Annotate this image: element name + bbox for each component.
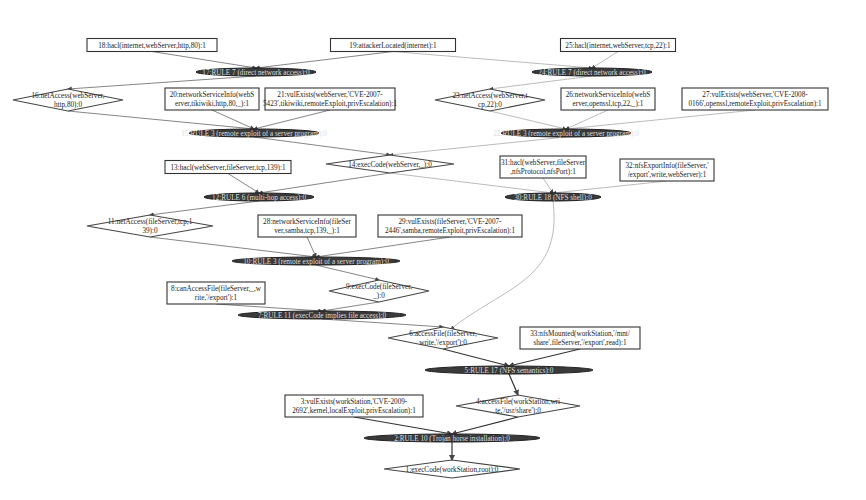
node-leaf-31[interactable]: 31:hacl(webServer,fileServer,nfsProtocol… <box>500 156 586 178</box>
node-rule-rule7b[interactable]: 24:RULE 7 (direct network access):0 <box>532 68 652 77</box>
edge-19-to-rule7a <box>256 52 393 69</box>
node-label: 18:hacl(internet,webServer,http,80):1 <box>98 42 206 50</box>
node-derived-11[interactable]: 11:netAccess(fileServer,tcp,139):0 <box>87 215 213 237</box>
node-label: 2692',kernel,localExploit,privEscalation… <box>292 407 416 415</box>
node-leaf-19[interactable]: 19:attackerLocated(internet):1 <box>331 39 456 52</box>
edge-rule7b-to-23 <box>490 76 592 89</box>
node-derived-9[interactable]: 9:execCode(fileServer,_):0 <box>329 280 429 302</box>
node-label: 25:hacl(internet,webServer,tcp,22):1 <box>565 42 671 50</box>
node-label: 5:RULE 17 (NFS semantics):0 <box>465 367 554 375</box>
edge-18-to-rule7a <box>152 52 256 69</box>
edge-19-to-rule7b <box>393 52 592 69</box>
node-label: 22:RULE 3 (remote exploit of a server pr… <box>493 130 639 138</box>
node-derived-16[interactable]: 16:netAccess(webServer,http,80):0 <box>13 89 123 111</box>
node-rule-rule3c[interactable]: 10:RULE 3 (remote exploit of a server pr… <box>232 257 400 266</box>
node-derived-14[interactable]: 14:execCode(webServer,_):0 <box>326 155 454 173</box>
node-leaf-27[interactable]: 27:vulExists(webServer,'CVE-2008-0166',o… <box>682 88 828 110</box>
node-leaf-33[interactable]: 33:nfsMounted(workStation,'/mnt/share',f… <box>520 327 640 349</box>
node-rule-rule17[interactable]: 5:RULE 17 (NFS semantics):0 <box>425 366 593 375</box>
node-rule-rule7a[interactable]: 17:RULE 7 (direct network access):0 <box>196 68 316 77</box>
node-label: 0166',openssl,remoteExploit,privEscalati… <box>688 100 822 108</box>
edge-3-to-rule10 <box>354 417 452 434</box>
node-label: 33:nfsMounted(workStation,'/mnt/ <box>530 330 630 338</box>
edge-4-to-rule10 <box>452 417 518 434</box>
node-label: 24:RULE 7 (direct network access):0 <box>538 69 646 77</box>
edge-rule3a-to-14 <box>254 137 390 155</box>
edge-29-to-rule3c <box>316 237 450 257</box>
node-derived-23[interactable]: 23:netAccess(webServer,tcp,22):0 <box>435 89 545 111</box>
edge-25-to-rule7b <box>592 52 618 69</box>
node-label: 8:canAccessFile(fileServer,_,w <box>171 285 262 293</box>
node-leaf-8[interactable]: 8:canAccessFile(fileServer,_,write,'/exp… <box>167 282 265 304</box>
node-label: 13:hacl(webServer,fileServer,tcp,139):1 <box>171 164 286 172</box>
node-leaf-13[interactable]: 13:hacl(webServer,fileServer,tcp,139):1 <box>165 161 291 174</box>
node-rule-rule3b[interactable]: 22:RULE 3 (remote exploit of a server pr… <box>493 129 639 138</box>
edge-13-to-rule6 <box>228 174 259 194</box>
node-leaf-3[interactable]: 3:vulExists(workStation,'CVE-2009-2692',… <box>285 395 423 417</box>
node-label: 9:execCode(fileServer, <box>346 283 412 291</box>
edge-9-to-rule11 <box>322 302 379 311</box>
node-label: http,80):0 <box>54 101 83 109</box>
node-leaf-18[interactable]: 18:hacl(internet,webServer,http,80):1 <box>87 39 217 52</box>
node-label: 4:accessFile(workStation,wri <box>476 398 560 406</box>
node-rule-rule6[interactable]: 12:RULE 6 (multi-hop access):0 <box>204 193 314 202</box>
node-label: 16:netAccess(webServer, <box>32 92 105 100</box>
node-label: 29:vulExists(fileServer,'CVE-2007- <box>398 218 502 226</box>
node-label: write,'/export'):0 <box>419 339 467 347</box>
node-leaf-28[interactable]: 28:networkServiceInfo(fileServer,samba,t… <box>258 215 356 237</box>
node-derived-6[interactable]: 6:accessFile(fileServer,write,'/export')… <box>388 327 498 349</box>
edge-26-to-rule3b <box>566 110 608 129</box>
node-leaf-26[interactable]: 26:networkServiceInfo(webServer,openssl,… <box>561 88 655 110</box>
edge-rule11-to-6 <box>322 319 443 327</box>
node-derived-1[interactable]: 1:execCode(workStation,root):0 <box>384 460 520 478</box>
node-label: /export',write,webServer):1 <box>628 171 707 179</box>
edge-rule3c-to-9 <box>316 265 379 280</box>
edge-33-to-rule17 <box>509 349 580 366</box>
node-label: 3:vulExists(workStation,'CVE-2009- <box>301 398 408 406</box>
node-label: erver,tikiwiki,http,80,_):1 <box>175 100 249 108</box>
node-label: 20:networkServiceInfo(webS <box>170 91 255 99</box>
edge-28-to-rule3c <box>307 237 316 257</box>
node-label: 31:hacl(webServer,fileServer <box>501 159 586 167</box>
edge-16-to-rule3a <box>68 111 254 129</box>
edge-23-to-rule3b <box>490 111 566 129</box>
edge-rule3b-to-14 <box>390 137 566 155</box>
edge-32-to-rule18 <box>553 181 667 193</box>
edge-8-to-rule11 <box>216 304 322 311</box>
edge-rule6-to-11 <box>150 201 259 215</box>
node-label: 28:networkServiceInfo(fileSer <box>263 218 351 226</box>
edge-31-to-rule18 <box>543 178 553 193</box>
node-label: _):0 <box>372 292 385 300</box>
node-leaf-32[interactable]: 32:nfsExportInfo(fileServer,'/export',wr… <box>620 159 714 181</box>
node-label: erver,openssl,tcp,22,_):1 <box>573 100 644 108</box>
node-label: rite,'/export'):1 <box>195 294 238 302</box>
node-rule-rule10[interactable]: 2:RULE 10 (Trojan horse installation):0 <box>364 434 540 443</box>
node-label: 2:RULE 10 (Trojan horse installation):0 <box>394 435 510 443</box>
node-leaf-21[interactable]: 21:vulExists(webServer,'CVE-2007-5423',t… <box>263 88 397 110</box>
node-label: 10:RULE 3 (remote exploit of a server pr… <box>243 258 389 266</box>
node-label: 5423',tikiwiki,remoteExploit,privEscalat… <box>263 100 397 108</box>
node-label: 21:vulExists(webServer,'CVE-2007- <box>277 91 383 99</box>
edge-27-to-rule3b <box>566 110 755 129</box>
edge-rule17-to-4 <box>509 374 518 395</box>
node-leaf-25[interactable]: 25:hacl(internet,webServer,tcp,22):1 <box>561 39 676 52</box>
node-label: 19:attackerLocated(internet):1 <box>349 42 437 50</box>
node-rule-rule11[interactable]: 7:RULE 11 (execCode implies file access)… <box>238 311 406 320</box>
node-label: 14:execCode(webServer,_):0 <box>348 161 432 169</box>
node-label: 1:execCode(workStation,root):0 <box>406 466 499 474</box>
node-label: 12:RULE 6 (multi-hop access):0 <box>212 194 306 202</box>
attack-graph: 18:hacl(internet,webServer,http,80):119:… <box>0 0 866 500</box>
node-leaf-29[interactable]: 29:vulExists(fileServer,'CVE-2007-2446',… <box>378 215 522 237</box>
node-label: 30:RULE 18 (NFS shell):0 <box>514 194 592 202</box>
edge-6-to-rule17 <box>443 349 509 366</box>
node-derived-4[interactable]: 4:accessFile(workStation,write,'/usr/sha… <box>456 395 580 417</box>
node-label: 15:RULE 3 (remote exploit of a server pr… <box>181 130 327 138</box>
node-label: share',fileServer,'/export',read):1 <box>533 339 627 347</box>
node-label: ,nfsProtocol,nfsPort):1 <box>510 168 576 176</box>
node-rule-rule3a[interactable]: 15:RULE 3 (remote exploit of a server pr… <box>181 129 327 138</box>
nodes-layer: 18:hacl(internet,webServer,http,80):119:… <box>13 39 828 479</box>
node-rule-rule18[interactable]: 30:RULE 18 (NFS shell):0 <box>505 193 601 202</box>
node-leaf-20[interactable]: 20:networkServiceInfo(webServer,tikiwiki… <box>165 88 259 110</box>
node-label: 2446',samba,remoteExploit,privEscalation… <box>385 227 515 235</box>
edge-20-to-rule3a <box>212 110 254 129</box>
